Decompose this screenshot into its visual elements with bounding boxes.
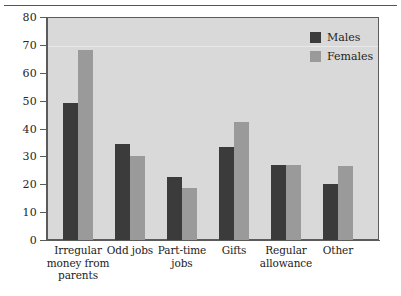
bar-females [338,166,353,240]
y-tick-label-text: 50 [3,96,37,107]
y-tick-label: 10 [0,207,37,218]
y-tick-label: 50 [0,96,37,107]
legend-item-females: Females [310,48,373,64]
y-tick-mark [40,17,47,18]
bar-males [219,147,234,240]
bar-males [115,144,130,240]
x-axis-label-line: jobs [146,257,218,270]
y-tick-mark [40,240,47,241]
bar-females [286,165,301,240]
legend-label-males: Males [327,32,361,43]
y-tick-label: 40 [0,124,37,135]
chart-legend: Males Females [310,29,373,67]
y-tick-label-text: 80 [3,12,37,23]
y-tick-label: 70 [0,40,37,51]
y-tick-label-text: 70 [3,40,37,51]
x-axis-label-line: money from [42,257,114,270]
legend-label-females: Females [327,51,373,62]
y-tick-label-text: 60 [3,68,37,79]
bar-chart-figure: 80706050403020100 Irregularmoney frompar… [0,0,401,296]
y-tick-label-text: 40 [3,124,37,135]
bar-males [63,103,78,240]
bar-males [167,177,182,240]
y-tick-mark [40,73,47,74]
bar-females [130,156,145,240]
y-tick-label: 80 [0,12,37,23]
y-tick-mark [40,45,47,46]
bar-females [234,122,249,240]
y-tick-label-text: 10 [3,207,37,218]
legend-swatch-females-icon [310,51,321,62]
y-tick-label-text: 30 [3,151,37,162]
top-divider-rule [4,5,397,6]
bar-males [271,165,286,240]
bar-males [323,184,338,240]
bar-females [78,50,93,240]
y-tick-mark [40,101,47,102]
x-axis-line [40,240,380,241]
legend-item-males: Males [310,29,373,45]
x-axis-label-line: Other [302,244,374,257]
y-tick-label: 0 [0,235,37,246]
y-tick-label: 60 [0,68,37,79]
y-tick-mark [40,212,47,213]
y-tick-label-text: 20 [3,179,37,190]
y-tick-label: 30 [0,151,37,162]
y-tick-mark [40,184,47,185]
y-tick-mark [40,156,47,157]
x-axis-label-line: allowance [250,257,322,270]
x-axis-label-line: parents [42,269,114,282]
y-tick-label-text: 0 [3,235,37,246]
x-axis-label: Other [302,244,374,257]
y-tick-label: 20 [0,179,37,190]
legend-swatch-males-icon [310,32,321,43]
y-tick-mark [40,129,47,130]
bar-females [182,188,197,240]
